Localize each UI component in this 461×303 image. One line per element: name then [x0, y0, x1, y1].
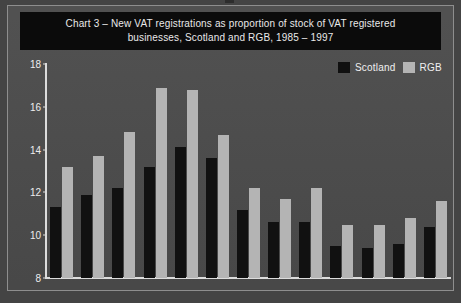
y-tick-mark-14: [43, 149, 46, 150]
bar-rgb-1987: [124, 132, 135, 278]
bar-scotland-1986: [81, 195, 92, 278]
y-tick-label-16: 16: [30, 101, 41, 112]
bar-scotland-1997: [424, 227, 435, 278]
scan-artifact: [225, 0, 234, 3]
chart-title: Chart 3 – New VAT registrations as propo…: [66, 17, 396, 45]
y-tick-label-12: 12: [30, 187, 41, 198]
bar-scotland-1985: [50, 207, 61, 278]
bar-scotland-1989: [175, 147, 186, 278]
bar-rgb-1989: [187, 90, 198, 278]
y-tick-label-14: 14: [30, 144, 41, 155]
bar-rgb-1996: [405, 218, 416, 278]
bar-rgb-1995: [374, 225, 385, 279]
y-tick-label-8: 8: [35, 273, 41, 284]
bar-group: [139, 64, 170, 278]
bar-group: [202, 64, 233, 278]
bar-group: [46, 64, 77, 278]
bar-scotland-1991: [237, 210, 248, 278]
bar-rgb-1991: [249, 188, 260, 278]
bar-group: [420, 64, 451, 278]
chart-title-band: Chart 3 – New VAT registrations as propo…: [20, 12, 441, 50]
y-tick-mark-8: [43, 278, 46, 279]
bar-rgb-1990: [218, 135, 229, 278]
bar-scotland-1993: [299, 222, 310, 278]
bar-scotland-1987: [112, 188, 123, 278]
bar-group: [171, 64, 202, 278]
bar-group: [108, 64, 139, 278]
bar-group: [77, 64, 108, 278]
chart-card: Chart 3 – New VAT registrations as propo…: [7, 5, 454, 291]
bar-group: [326, 64, 357, 278]
bar-rgb-1985: [62, 167, 73, 278]
bar-groups: [46, 64, 451, 278]
y-tick-label-18: 18: [30, 59, 41, 70]
y-tick-mark-10: [43, 235, 46, 236]
y-tick-mark-12: [43, 192, 46, 193]
bar-group: [233, 64, 264, 278]
bar-rgb-1988: [156, 88, 167, 278]
bar-scotland-1994: [330, 246, 341, 278]
bar-rgb-1986: [93, 156, 104, 278]
bar-scotland-1995: [362, 248, 373, 278]
y-tick-label-10: 10: [30, 230, 41, 241]
bar-group: [295, 64, 326, 278]
y-tick-mark-18: [43, 64, 46, 65]
bar-rgb-1997: [436, 201, 447, 278]
bar-rgb-1992: [280, 199, 291, 278]
bar-scotland-1990: [206, 158, 217, 278]
bar-group: [264, 64, 295, 278]
bar-scotland-1996: [393, 244, 404, 278]
chart-screenshot: Chart 3 – New VAT registrations as propo…: [0, 0, 461, 303]
bar-rgb-1993: [311, 188, 322, 278]
plot-area: 18161412108 1985198619871988198919901991…: [46, 64, 451, 278]
y-tick-mark-16: [43, 106, 46, 107]
bar-scotland-1988: [144, 167, 155, 278]
bar-scotland-1992: [268, 222, 279, 278]
bar-group: [358, 64, 389, 278]
bar-rgb-1994: [342, 225, 353, 279]
bar-group: [389, 64, 420, 278]
